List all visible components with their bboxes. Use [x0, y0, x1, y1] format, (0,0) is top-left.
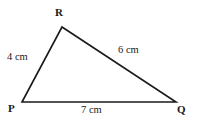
side-length-label-pr: 4 cm: [7, 52, 28, 63]
triangle-drawing: [0, 0, 197, 121]
vertex-label-p: P: [8, 103, 15, 114]
side-length-label-rq: 6 cm: [118, 45, 139, 56]
triangle-outline: [22, 27, 176, 102]
side-length-label-pq: 7 cm: [81, 105, 102, 116]
vertex-label-r: R: [55, 7, 63, 18]
triangle-figure: P Q R 4 cm 6 cm 7 cm: [0, 0, 197, 121]
vertex-label-q: Q: [177, 104, 186, 115]
